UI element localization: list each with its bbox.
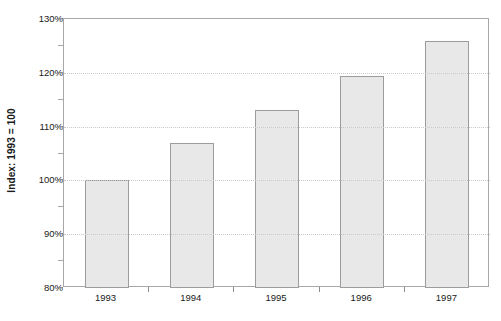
y-tick-label: 100%	[17, 174, 63, 185]
x-tick-label: 1993	[66, 292, 146, 303]
y-tick-label: 80%	[17, 282, 63, 293]
bar	[170, 143, 214, 288]
x-tick-mark	[404, 287, 405, 292]
x-tick-label: 1996	[321, 292, 401, 303]
y-tick-mark	[58, 287, 63, 288]
y-tick-label: 130%	[17, 13, 63, 24]
gridline-y	[64, 127, 490, 128]
x-tick-label: 1995	[236, 292, 316, 303]
x-tick-mark	[319, 287, 320, 292]
gridline-y	[64, 180, 490, 181]
bar	[255, 110, 299, 288]
y-axis: 80%90%100%110%120%130%	[0, 0, 63, 321]
x-tick-label: 1997	[406, 292, 486, 303]
x-tick-mark	[148, 287, 149, 292]
y-tick-label: 110%	[17, 120, 63, 131]
bars-layer	[64, 19, 490, 288]
y-tick-label: 90%	[17, 228, 63, 239]
x-tick-mark	[233, 287, 234, 292]
x-tick-label: 1994	[151, 292, 231, 303]
bar	[425, 41, 469, 288]
y-tick-label: 120%	[17, 66, 63, 77]
bar	[340, 76, 384, 289]
plot-area	[63, 18, 489, 287]
gridline-y	[64, 73, 490, 74]
gridline-y	[64, 234, 490, 235]
bar-chart: Index: 1993 = 100 80%90%100%110%120%130%…	[0, 0, 501, 321]
